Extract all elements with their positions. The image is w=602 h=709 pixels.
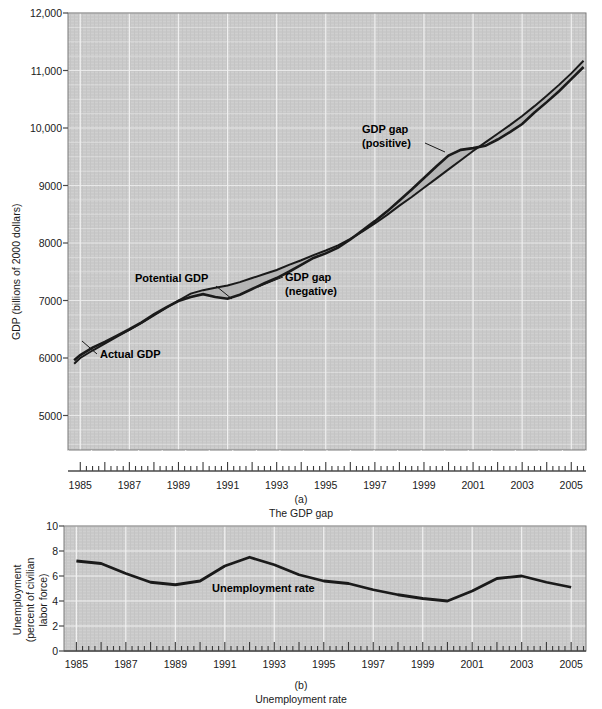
x-tick-b-1989: 1989 <box>164 658 188 670</box>
y-tick-b-0: 0 <box>52 645 58 657</box>
y-tick-b-4: 4 <box>52 595 58 607</box>
y-tick-a-6000: 6000 <box>39 352 63 364</box>
y-axis-title-a: GDP (billions of 2000 dollars) <box>10 204 22 340</box>
y-tick-a-11000: 11,000 <box>31 65 62 77</box>
x-tick-b-1991: 1991 <box>213 658 237 670</box>
x-tick-a-1997: 1997 <box>363 479 387 491</box>
y-tick-a-5000: 5000 <box>39 410 63 422</box>
caption-letter-a: (a) <box>295 493 308 505</box>
x-tick-b-1987: 1987 <box>114 658 138 670</box>
x-tick-b-1993: 1993 <box>263 658 287 670</box>
y-axis-title-b-line3: labor force) <box>37 573 49 626</box>
y-tick-a-9000: 9000 <box>39 180 63 192</box>
x-tick-a-1995: 1995 <box>314 479 338 491</box>
x-tick-a-1991: 1991 <box>216 479 240 491</box>
caption-letter-b: (b) <box>295 679 308 691</box>
x-tick-b-2001: 2001 <box>461 658 485 670</box>
x-tick-b-2003: 2003 <box>510 658 534 670</box>
x-tick-a-1985: 1985 <box>69 479 93 491</box>
chart-canvas: 5000600070008000900010,00011,00012,000 1… <box>0 0 602 709</box>
y-tick-a-7000: 7000 <box>39 295 63 307</box>
x-tick-a-2005: 2005 <box>560 479 584 491</box>
y-tick-a-8000: 8000 <box>39 237 63 249</box>
x-tick-b-2005: 2005 <box>559 658 583 670</box>
x-tick-b-1985: 1985 <box>65 658 89 670</box>
label-potential-gdp: Potential GDP <box>135 272 208 284</box>
y-tick-b-10: 10 <box>46 520 58 532</box>
label-gap-negative-1: GDP gap <box>285 271 332 283</box>
label-actual-gdp: Actual GDP <box>100 348 161 360</box>
y-tick-b-2: 2 <box>52 620 58 632</box>
figure-gdp-gap-and-unemployment: 5000600070008000900010,00011,00012,000 1… <box>0 0 602 709</box>
x-tick-a-1987: 1987 <box>118 479 142 491</box>
y-tick-b-6: 6 <box>52 570 58 582</box>
x-tick-a-1989: 1989 <box>167 479 191 491</box>
x-tick-b-1999: 1999 <box>411 658 435 670</box>
caption-text-b: Unemployment rate <box>255 693 347 705</box>
plot-area-a <box>68 13 586 450</box>
label-gap-positive-1: GDP gap <box>362 123 409 135</box>
y-tick-a-10000: 10,000 <box>30 122 62 134</box>
label-gap-positive-2: (positive) <box>362 137 411 149</box>
label-unemployment-rate: Unemployment rate <box>212 582 315 594</box>
x-tick-a-2003: 2003 <box>510 479 534 491</box>
y-tick-a-12000: 12,000 <box>30 7 62 19</box>
x-tick-b-1997: 1997 <box>362 658 386 670</box>
x-tick-a-1999: 1999 <box>412 479 436 491</box>
y-axis-title-b-line2: (percent of civilian <box>24 558 36 643</box>
label-gap-negative-2: (negative) <box>285 285 337 297</box>
x-tick-a-1993: 1993 <box>265 479 289 491</box>
plot-area-b <box>64 526 586 651</box>
y-tick-b-8: 8 <box>52 545 58 557</box>
panel-a: 5000600070008000900010,00011,00012,000 1… <box>10 7 586 519</box>
caption-text-a: The GDP gap <box>269 507 333 519</box>
y-axis-title-b-line1: Unemployment <box>11 565 23 636</box>
x-tick-b-1995: 1995 <box>312 658 336 670</box>
x-tick-a-2001: 2001 <box>461 479 485 491</box>
